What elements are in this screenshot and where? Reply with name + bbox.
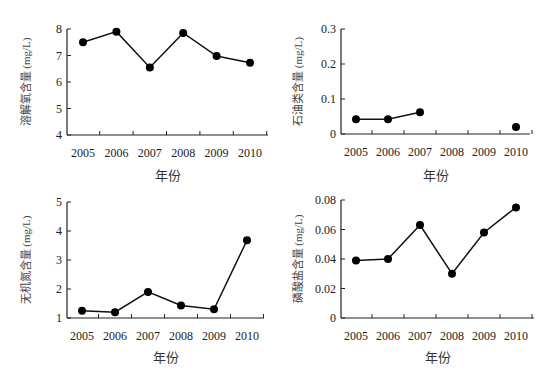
x-tick-label: 2006 [104,146,128,160]
x-tick-label: 2009 [205,146,229,160]
data-line [83,32,250,68]
data-point [480,228,488,236]
x-tick-label: 2008 [440,329,464,343]
data-point [112,28,120,36]
x-tick-label: 2008 [440,145,464,159]
y-tick-label: 2 [56,282,62,296]
data-point [146,63,154,71]
data-point [512,203,520,211]
y-tick-label: 0 [330,311,336,325]
y-tick-label: 8 [56,22,62,36]
data-point [179,29,187,37]
data-point [210,305,218,313]
x-tick-label: 2005 [71,146,95,160]
y-tick-label: 0.02 [315,282,336,296]
y-tick-label: 3 [56,253,62,267]
data-point [352,256,360,264]
x-tick-label: 2009 [472,145,496,159]
x-axis-title: 年份 [155,168,181,183]
x-tick-label: 2010 [504,329,528,343]
y-tick-label: 0.04 [315,252,336,266]
data-point [243,236,251,244]
y-tick-label: 0.06 [315,223,336,237]
x-tick-label: 2010 [504,145,528,159]
chart-panel-4: 00.020.040.060.0820052006200720082009201… [291,193,534,365]
data-point [177,302,185,310]
x-tick-label: 2009 [202,329,226,343]
x-tick-label: 2005 [70,329,94,343]
data-point [352,115,360,123]
y-tick-label: 4 [56,224,62,238]
y-axis-title: 无机氮含量 (mg/L) [19,215,33,304]
y-tick-label: 0 [330,127,336,141]
x-tick-label: 2007 [408,329,432,343]
y-tick-label: 0.2 [321,57,336,71]
data-point [384,255,392,263]
x-tick-label: 2010 [238,146,262,160]
x-tick-label: 2008 [171,146,195,160]
chart-figure: 45678200520062007200820092010年份溶解氧含量 (mg… [0,0,557,375]
x-tick-label: 2009 [472,329,496,343]
x-tick-label: 2005 [344,145,368,159]
data-point [512,123,520,131]
x-tick-label: 2010 [235,329,259,343]
chart-panel-2: 00.10.20.3200520062007200820092010年份石油类含… [291,22,532,183]
y-tick-label: 0.1 [321,92,336,106]
data-point [213,52,221,60]
data-point [448,270,456,278]
x-tick-label: 2006 [376,329,400,343]
y-tick-label: 5 [56,195,62,209]
y-tick-label: 5 [56,102,62,116]
y-axis-title: 石油类含量 (mg/L) [291,37,305,126]
y-axis-title: 溶解氧含量 (mg/L) [19,37,33,126]
x-axis-title: 年份 [425,350,451,365]
y-tick-label: 0.08 [315,193,336,207]
data-point [144,288,152,296]
x-axis-title: 年份 [153,350,179,365]
x-tick-label: 2008 [169,329,193,343]
chart-panel-1: 45678200520062007200820092010年份溶解氧含量 (mg… [19,22,268,183]
y-tick-label: 7 [56,49,62,63]
x-tick-label: 2006 [376,145,400,159]
y-tick-label: 4 [56,128,62,142]
chart-panel-3: 12345200520062007200820092010年份无机氮含量 (mg… [19,195,264,365]
x-tick-label: 2007 [138,146,162,160]
data-point [79,38,87,46]
y-axis-title: 磷酸盐含量 (mg/L) [291,214,305,303]
y-tick-label: 0.3 [321,22,336,36]
data-point [111,308,119,316]
data-point [384,115,392,123]
data-line [82,240,247,312]
x-tick-label: 2007 [136,329,160,343]
data-line [356,207,516,273]
y-tick-label: 1 [56,311,62,325]
data-point [78,307,86,315]
x-axis-title: 年份 [423,168,449,183]
x-tick-label: 2007 [408,145,432,159]
x-tick-label: 2006 [103,329,127,343]
y-tick-label: 6 [56,75,62,89]
data-point [416,108,424,116]
data-point [246,59,254,67]
data-point [416,221,424,229]
x-tick-label: 2005 [344,329,368,343]
